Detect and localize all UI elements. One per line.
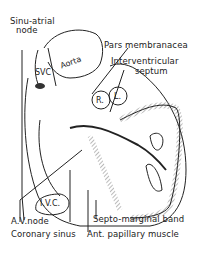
label-coronary-sinus: Coronary sinus <box>11 230 76 239</box>
label-av-node: A.V.node <box>11 217 49 226</box>
label-pars-membranacea: Pars membranacea <box>104 41 188 50</box>
label-right-cusp: R. <box>96 96 104 105</box>
label-text: node <box>16 25 38 35</box>
heart-diagram: Sinu-atrial node Pars membranacea Interv… <box>0 0 197 254</box>
label-svc: SVC <box>35 68 51 77</box>
label-interventricular-septum: Interventricular <box>111 57 179 66</box>
label-ivc: I.V.C. <box>40 199 60 208</box>
label-left-cusp: L. <box>114 92 121 101</box>
label-sinu-atrial-node-2: node <box>16 26 38 35</box>
label-interventricular-septum-2: septum <box>135 67 168 76</box>
label-ant-papillary-muscle: Ant. papillary muscle <box>87 230 179 239</box>
label-septo-marginal-band: Septo-marginal band <box>93 215 184 224</box>
